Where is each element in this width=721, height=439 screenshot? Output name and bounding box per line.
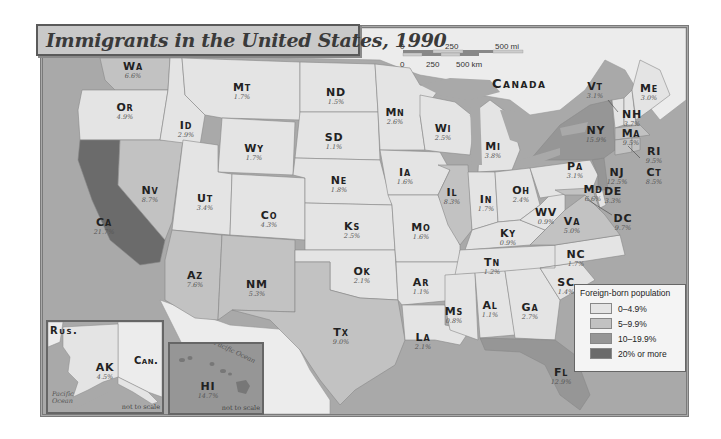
label-nv: Nv8.7% xyxy=(142,185,159,204)
label-sc: SC1.4% xyxy=(557,277,575,296)
hawaii-inset: Pacific Ocean HI14.7% not to scale xyxy=(168,342,264,415)
legend-title: Foreign-born population xyxy=(580,288,680,298)
legend-swatch xyxy=(590,333,612,344)
label-mo: Mo1.6% xyxy=(411,222,430,241)
label-la: La2.1% xyxy=(415,332,432,351)
label-canada: Canada xyxy=(492,76,546,91)
label-mn: Mn2.6% xyxy=(385,107,404,126)
label-oh: Oh2.4% xyxy=(512,185,530,204)
legend-item-0-4-9: 0–4.9% xyxy=(580,301,680,316)
not-to-scale-hi: not to scale xyxy=(222,404,260,412)
label-fl: Fl12.9% xyxy=(551,367,572,386)
label-or: Or4.9% xyxy=(116,102,133,121)
label-az: Az7.6% xyxy=(187,270,204,289)
label-va: Va5.0% xyxy=(564,216,581,235)
label-ms: Ms0.8% xyxy=(445,306,463,325)
legend: Foreign-born population 0–4.9% 5–9.9% 10… xyxy=(574,284,686,372)
scale-km-500: 500 km xyxy=(456,60,482,69)
label-in: In1.7% xyxy=(478,194,495,213)
label-pa: Pa3.1% xyxy=(567,161,584,180)
label-mt: Mt1.7% xyxy=(233,82,251,101)
label-wa: Wa6.6% xyxy=(123,61,143,80)
label-ak: AK4.5% xyxy=(96,362,115,381)
label-wy: Wy1.7% xyxy=(244,143,264,162)
label-can-inset: Can. xyxy=(134,355,158,366)
label-nm: NM5.3% xyxy=(246,279,268,298)
label-ct: Ct8.5% xyxy=(646,167,663,186)
label-nh: NH3.7% xyxy=(622,109,642,128)
label-il: Il8.3% xyxy=(444,187,461,206)
label-nc: NC1.7% xyxy=(567,249,586,268)
label-ne: Ne1.8% xyxy=(331,175,348,194)
label-sd: SD1.1% xyxy=(325,132,344,151)
label-hi: HI14.7% xyxy=(198,381,219,400)
scale-km-0: 0 xyxy=(400,60,404,69)
label-mi: Mi3.8% xyxy=(485,141,502,160)
map-title: Immigrants in the United States, 1990 xyxy=(46,29,447,51)
scale-mi-500: 500 mi xyxy=(495,42,519,51)
label-me: Me3.0% xyxy=(640,83,658,102)
legend-swatch xyxy=(590,348,612,359)
label-ok: Ok2.1% xyxy=(353,266,370,285)
label-de: DE3.3% xyxy=(604,186,622,205)
label-al: Al1.1% xyxy=(482,300,499,319)
label-ky: Ky0.9% xyxy=(500,228,517,247)
not-to-scale-ak: not to scale xyxy=(122,403,160,411)
alaska-inset: Rus. Can. AK4.5% Pacific Ocean not to sc… xyxy=(46,320,164,414)
map-title-box: Immigrants in the United States, 1990 xyxy=(36,24,360,56)
legend-item-10-19-9: 10–19.9% xyxy=(580,331,680,346)
state-ia xyxy=(380,150,450,195)
label-tx: Tx9.0% xyxy=(333,327,350,346)
label-nd: ND1.5% xyxy=(326,87,346,106)
legend-item-20-plus: 20% or more xyxy=(580,346,680,361)
label-nj: NJ12.5% xyxy=(607,167,628,186)
label-md: Md6.6% xyxy=(583,184,602,203)
label-rus: Rus. xyxy=(50,325,78,336)
state-co xyxy=(230,174,305,240)
lake-michigan xyxy=(470,105,482,165)
scale-km: 0 250 500 km xyxy=(400,60,520,70)
label-ga: Ga2.7% xyxy=(522,302,539,321)
label-ca: Ca21.7% xyxy=(94,217,115,236)
label-vt: Vt3.1% xyxy=(587,81,604,100)
label-ny: NY15.9% xyxy=(586,125,607,144)
label-pacific-ocean-ak: Pacific Ocean xyxy=(52,391,82,405)
label-ia: Ia1.6% xyxy=(397,167,414,186)
label-tn: Tn1.2% xyxy=(484,257,501,276)
legend-swatch xyxy=(590,318,612,329)
scale-km-250: 250 xyxy=(426,60,439,69)
label-ks: Ks2.5% xyxy=(344,221,361,240)
scale-mi-250: 250 xyxy=(445,42,458,51)
label-ma: Ma9.5% xyxy=(622,128,641,147)
label-ri: RI9.5% xyxy=(646,146,663,165)
label-co: Co4.3% xyxy=(261,210,278,229)
label-ar: Ar1.1% xyxy=(413,277,430,296)
legend-item-5-9-9: 5–9.9% xyxy=(580,316,680,331)
label-dc: DC9.7% xyxy=(614,213,633,232)
label-id: Id2.9% xyxy=(178,120,195,139)
legend-swatch xyxy=(590,303,612,314)
label-wv: WV0.9% xyxy=(535,207,557,226)
label-ut: Ut3.4% xyxy=(197,193,214,212)
label-wi: Wi2.5% xyxy=(435,123,452,142)
